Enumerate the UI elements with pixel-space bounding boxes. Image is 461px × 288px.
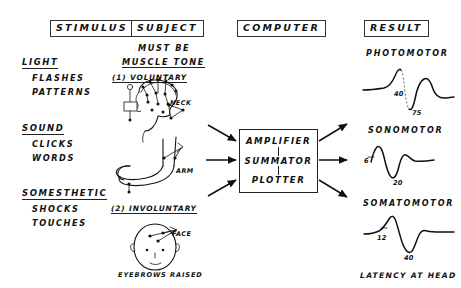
result-waveform-somatomotor [0, 0, 461, 288]
figure-canvas: STIMULUS SUBJECT COMPUTER RESULT LIGHT F… [0, 0, 461, 288]
result-label-somatomotor-40: 40 [404, 255, 414, 262]
result-caption-latency-at-head: LATENCY AT HEAD [360, 272, 457, 280]
result-label-somatomotor-12: 12 [377, 235, 387, 242]
